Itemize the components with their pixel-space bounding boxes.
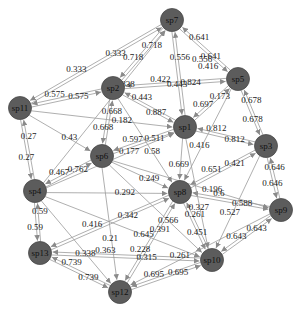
- edge-weight-label: 0.261: [170, 250, 190, 260]
- node-sp4: sp4: [24, 180, 47, 203]
- edge-weight-label: 0.196: [202, 184, 223, 194]
- edge-weight-label: 0.695: [168, 267, 189, 277]
- node-sp11: sp11: [9, 97, 32, 120]
- edge-sp11-sp2: [32, 92, 102, 107]
- edge-weight-label: 0.678: [241, 95, 262, 105]
- node-sp1: sp1: [174, 116, 197, 139]
- node-sp10: sp10: [201, 249, 224, 272]
- edge-weight-label: 0.416: [198, 61, 219, 71]
- edge-weight-label: 0.695: [144, 269, 165, 279]
- edge-weight-label: 0.669: [169, 159, 190, 169]
- edge-weight-label: 0.416: [189, 140, 210, 150]
- edge-sp12-sp10: [131, 266, 200, 290]
- node-label: sp11: [12, 103, 29, 113]
- edge-weight-label: 0.643: [226, 231, 247, 241]
- node-label: sp8: [174, 187, 187, 197]
- node-label: sp3: [260, 141, 273, 151]
- edge-weight-label: 0.556: [170, 52, 191, 62]
- edge-weight-label: 0.443: [132, 92, 153, 102]
- edge-weight-label: 0.467: [49, 167, 70, 177]
- edge-weight-label: 0.575: [45, 89, 66, 99]
- edge-weight-label: 0.59: [32, 206, 48, 216]
- edge-sp4-sp12: [41, 201, 111, 284]
- edge-weight-label: 0.391: [150, 224, 170, 234]
- edge-weight-label: 0.416: [82, 219, 103, 229]
- edge-weight-label: 0.363: [95, 245, 116, 255]
- edge-weight-label: 0.21: [102, 233, 118, 243]
- edge-weight-label: 0.421: [225, 158, 245, 168]
- edge-weight-label: 0.718: [142, 40, 163, 50]
- node-sp5: sp5: [227, 68, 250, 91]
- node-label: sp1: [179, 122, 192, 132]
- edge-sp11-sp4: [21, 120, 32, 179]
- node-sp3: sp3: [255, 135, 278, 158]
- node-label: sp7: [166, 15, 179, 25]
- edge-weight-label: 0.422: [150, 74, 170, 84]
- edge-weight-label: 0.678: [242, 114, 263, 124]
- edge-weight-label: 0.43: [61, 132, 77, 142]
- edge-weight-label: 0.315: [136, 252, 157, 262]
- edge-weight-label: 0.27: [21, 131, 37, 141]
- edge-weight-label: 0.59: [27, 222, 43, 232]
- node-label: sp4: [29, 186, 42, 196]
- edge-weight-label: 0.27: [18, 152, 34, 162]
- edge-weight-label: 0.812: [224, 134, 244, 144]
- node-sp7: sp7: [161, 9, 184, 32]
- edge-weight-label: 0.646: [262, 178, 283, 188]
- node-sp2: sp2: [102, 77, 125, 100]
- edge-sp7-sp1: [172, 32, 182, 115]
- node-label: sp2: [107, 83, 120, 93]
- edge-weight-label: 0.643: [246, 223, 267, 233]
- node-sp6: sp6: [91, 145, 114, 168]
- edge-sp4-sp8: [46, 193, 167, 194]
- edge-weight-label: 0.887: [146, 107, 167, 117]
- edge-weight-label: 0.651: [201, 164, 221, 174]
- edge-sp4-sp11: [24, 120, 35, 179]
- edge-sp4-sp10: [45, 197, 200, 257]
- edge-weight-label: 0.451: [187, 227, 207, 237]
- edge-weight-label: 0.173: [210, 91, 231, 101]
- node-label: sp6: [96, 151, 109, 161]
- edge-weight-label: 0.739: [78, 272, 99, 282]
- node-sp8: sp8: [169, 181, 192, 204]
- network-graph: 0.3330.3330.7180.7180.6410.6410.5560.443…: [0, 0, 301, 313]
- edge-weight-label: 0.762: [68, 164, 88, 174]
- node-label: sp12: [111, 287, 128, 297]
- node-sp9: sp9: [270, 199, 293, 222]
- edge-weight-label: 0.327: [189, 202, 210, 212]
- edge-weight-label: 0.824: [181, 77, 202, 87]
- edge-sp3-sp8: [190, 150, 255, 185]
- node-label: sp9: [275, 205, 288, 215]
- edge-weight-label: 0.333: [66, 64, 87, 74]
- edge-sp10-sp12: [131, 262, 200, 286]
- node-sp12: sp12: [109, 281, 132, 304]
- edge-weight-label: 0.342: [118, 210, 138, 220]
- edge-sp1-sp7: [175, 32, 185, 115]
- edge-weight-label: 0.739: [62, 257, 83, 267]
- edge-weight-label: 0.668: [93, 122, 114, 132]
- edge-weight-label: 0.718: [123, 52, 144, 62]
- edge-weight-label: 0.511: [144, 133, 164, 143]
- edge-weight-label: 0.597: [122, 134, 143, 144]
- node-sp13: sp13: [29, 242, 52, 265]
- edge-weight-label: 0.338: [75, 248, 96, 258]
- node-label: sp5: [232, 74, 245, 84]
- edge-weight-label: 0.249: [139, 173, 160, 183]
- edge-weight-label: 0.527: [220, 207, 241, 217]
- node-label: sp13: [31, 248, 49, 258]
- edge-weight-label: 0.641: [189, 32, 209, 42]
- edge-weight-label: 0.812: [206, 123, 226, 133]
- edge-weight-label: 0.646: [264, 162, 285, 172]
- edge-weight-label: 0.58: [144, 146, 160, 156]
- edge-sp11-sp6: [29, 115, 90, 151]
- edge-weight-label: 0.177: [119, 146, 140, 156]
- edge-weight-label: 0.182: [112, 115, 132, 125]
- edge-weight-label: 0.575: [68, 91, 89, 101]
- edge-weight-label: 0.292: [115, 187, 135, 197]
- node-label: sp10: [203, 255, 221, 265]
